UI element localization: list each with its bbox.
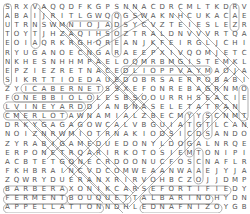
grid-letter[interactable]: I — [176, 130, 185, 139]
grid-letter[interactable]: S — [103, 85, 112, 94]
grid-letter[interactable]: R — [21, 21, 30, 30]
grid-letter[interactable]: B — [121, 94, 130, 103]
grid-letter[interactable]: J — [212, 49, 221, 58]
grid-letter[interactable]: M — [231, 85, 240, 94]
grid-letter[interactable]: M — [58, 21, 67, 30]
grid-letter[interactable]: Y — [130, 21, 139, 30]
grid-letter[interactable]: R — [49, 12, 58, 21]
grid-letter[interactable]: A — [67, 30, 76, 39]
grid-letter[interactable]: B — [185, 85, 194, 94]
grid-letter[interactable]: E — [176, 149, 185, 158]
grid-letter[interactable]: G — [58, 121, 67, 130]
grid-letter[interactable]: P — [85, 58, 94, 67]
grid-letter[interactable]: U — [85, 194, 94, 203]
grid-letter[interactable]: T — [221, 30, 230, 39]
grid-letter[interactable]: E — [212, 58, 221, 67]
grid-letter[interactable]: L — [76, 12, 85, 21]
grid-letter[interactable]: R — [240, 21, 249, 30]
grid-letter[interactable]: G — [176, 58, 185, 67]
grid-letter[interactable]: R — [58, 67, 67, 76]
grid-letter[interactable]: E — [112, 140, 121, 149]
grid-letter[interactable]: O — [167, 185, 176, 194]
grid-letter[interactable]: A — [212, 67, 221, 76]
grid-letter[interactable]: I — [194, 203, 203, 212]
grid-letter[interactable]: I — [76, 21, 85, 30]
grid-letter[interactable]: D — [158, 3, 167, 12]
grid-letter[interactable]: Q — [94, 39, 103, 48]
grid-letter[interactable]: O — [176, 140, 185, 149]
grid-letter[interactable]: O — [240, 130, 249, 139]
grid-letter[interactable]: V — [30, 3, 39, 12]
grid-letter[interactable]: A — [39, 85, 48, 94]
grid-letter[interactable]: N — [167, 12, 176, 21]
grid-letter[interactable]: S — [112, 94, 121, 103]
grid-letter[interactable]: A — [58, 185, 67, 194]
grid-letter[interactable]: A — [3, 158, 12, 167]
grid-letter[interactable]: A — [94, 112, 103, 121]
grid-letter[interactable]: N — [212, 140, 221, 149]
grid-letter[interactable]: O — [58, 49, 67, 58]
grid-letter[interactable]: N — [85, 112, 94, 121]
grid-letter[interactable]: L — [130, 112, 139, 121]
grid-letter[interactable]: E — [176, 21, 185, 30]
grid-letter[interactable]: B — [167, 176, 176, 185]
grid-letter[interactable]: O — [130, 140, 139, 149]
grid-letter[interactable]: B — [212, 76, 221, 85]
grid-letter[interactable]: Y — [194, 67, 203, 76]
grid-letter[interactable]: E — [140, 167, 149, 176]
grid-letter[interactable]: R — [176, 194, 185, 203]
grid-letter[interactable]: K — [58, 39, 67, 48]
grid-letter[interactable]: A — [221, 103, 230, 112]
grid-letter[interactable]: E — [85, 158, 94, 167]
grid-letter[interactable]: T — [194, 149, 203, 158]
grid-letter[interactable]: T — [231, 49, 240, 58]
grid-letter[interactable]: I — [167, 49, 176, 58]
grid-letter[interactable]: T — [58, 194, 67, 203]
grid-letter[interactable]: Q — [231, 30, 240, 39]
grid-letter[interactable]: A — [67, 112, 76, 121]
grid-letter[interactable]: D — [112, 21, 121, 30]
grid-letter[interactable]: N — [121, 3, 130, 12]
grid-letter[interactable]: J — [140, 39, 149, 48]
grid-letter[interactable]: S — [203, 21, 212, 30]
grid-letter[interactable]: M — [12, 112, 21, 121]
grid-letter[interactable]: L — [130, 67, 139, 76]
grid-letter[interactable]: K — [21, 121, 30, 130]
grid-letter[interactable]: N — [85, 49, 94, 58]
grid-letter[interactable]: A — [212, 130, 221, 139]
grid-letter[interactable]: C — [240, 49, 249, 58]
grid-letter[interactable]: N — [30, 21, 39, 30]
grid-letter[interactable]: Z — [3, 85, 12, 94]
grid-letter[interactable]: I — [240, 76, 249, 85]
grid-letter[interactable]: A — [12, 185, 21, 194]
grid-letter[interactable]: M — [76, 58, 85, 67]
grid-letter[interactable]: A — [231, 12, 240, 21]
grid-letter[interactable]: Q — [39, 39, 48, 48]
grid-letter[interactable]: Q — [185, 49, 194, 58]
grid-letter[interactable]: G — [149, 121, 158, 130]
grid-letter[interactable]: S — [3, 76, 12, 85]
grid-letter[interactable]: F — [158, 185, 167, 194]
grid-letter[interactable]: E — [3, 67, 12, 76]
grid-letter[interactable]: I — [167, 149, 176, 158]
grid-letter[interactable]: E — [149, 185, 158, 194]
grid-letter[interactable]: A — [121, 130, 130, 139]
grid-letter[interactable]: H — [85, 39, 94, 48]
grid-letter[interactable]: B — [140, 121, 149, 130]
grid-letter[interactable]: N — [140, 158, 149, 167]
grid-letter[interactable]: M — [140, 58, 149, 67]
grid-letter[interactable]: I — [94, 103, 103, 112]
grid-letter[interactable]: E — [49, 149, 58, 158]
grid-letter[interactable]: G — [76, 39, 85, 48]
grid-letter[interactable]: E — [67, 176, 76, 185]
grid-letter[interactable]: S — [158, 149, 167, 158]
grid-letter[interactable]: T — [140, 149, 149, 158]
grid-letter[interactable]: Z — [3, 176, 12, 185]
grid-letter[interactable]: O — [112, 30, 121, 39]
grid-letter[interactable]: E — [103, 94, 112, 103]
grid-letter[interactable]: D — [49, 176, 58, 185]
grid-letter[interactable]: A — [58, 103, 67, 112]
grid-letter[interactable]: B — [3, 185, 12, 194]
grid-letter[interactable]: T — [39, 76, 48, 85]
grid-letter[interactable]: E — [76, 76, 85, 85]
